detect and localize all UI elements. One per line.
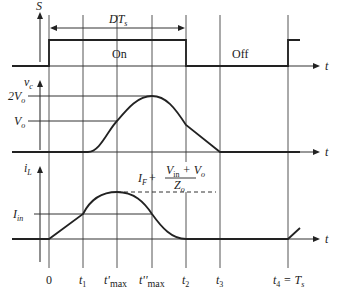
- s-x-arrow-icon: [313, 63, 320, 69]
- time-label-t4: t4 = Ts: [273, 273, 304, 289]
- duty-arrow-right-icon: [178, 25, 185, 31]
- time-marker-labels: 0 t1 t'max t''max t2 t3 t4 = Ts: [46, 273, 304, 289]
- time-label-tmax2: t''max: [139, 273, 165, 289]
- il-y-label: iL: [24, 161, 32, 177]
- svg-text:Zo: Zo: [174, 178, 185, 194]
- il-x-label: t: [325, 232, 329, 246]
- time-label-t3: t3: [216, 273, 223, 289]
- switch-panel: S t DTs On Off: [12, 0, 329, 73]
- inductor-current-panel: iL t Iin IF+ Vin + Vo Zo: [12, 161, 329, 262]
- s-y-label: S: [36, 0, 42, 13]
- vc-y-label: vc: [24, 75, 33, 91]
- il-iin-label: Iin: [12, 207, 23, 223]
- il-x-arrow-icon: [313, 236, 320, 242]
- capacitor-voltage-waveform: [12, 96, 300, 152]
- vc-x-label: t: [325, 145, 329, 159]
- s-y-arrow-icon: [37, 12, 43, 19]
- inductor-current-waveform: [12, 192, 300, 239]
- time-label-0: 0: [46, 273, 52, 287]
- vc-y-arrow-icon: [37, 80, 43, 87]
- time-label-t2: t2: [182, 273, 189, 289]
- svg-text:Vin + Vo: Vin + Vo: [166, 163, 205, 179]
- vc-vo-label: Vo: [14, 114, 25, 130]
- timing-diagram: S t DTs On Off vc t 2Vo Vo: [0, 0, 359, 295]
- il-y-arrow-icon: [37, 166, 43, 173]
- duty-interval-label: DTs: [108, 12, 127, 28]
- time-label-t1: t1: [79, 273, 86, 289]
- vc-x-arrow-icon: [313, 149, 320, 155]
- time-grid-lines: [49, 15, 288, 268]
- switch-waveform: [12, 40, 300, 66]
- il-peak-label: IF+ Vin + Vo Zo: [137, 163, 205, 194]
- s-x-label: t: [325, 59, 329, 73]
- capacitor-voltage-panel: vc t 2Vo Vo: [8, 75, 329, 159]
- svg-text:IF+: IF+: [137, 171, 156, 187]
- time-label-tmax1: t'max: [104, 273, 127, 289]
- vc-2vo-label: 2Vo: [8, 89, 25, 105]
- off-state-label: Off: [232, 47, 248, 61]
- duty-arrow-left-icon: [50, 25, 57, 31]
- on-state-label: On: [112, 47, 127, 61]
